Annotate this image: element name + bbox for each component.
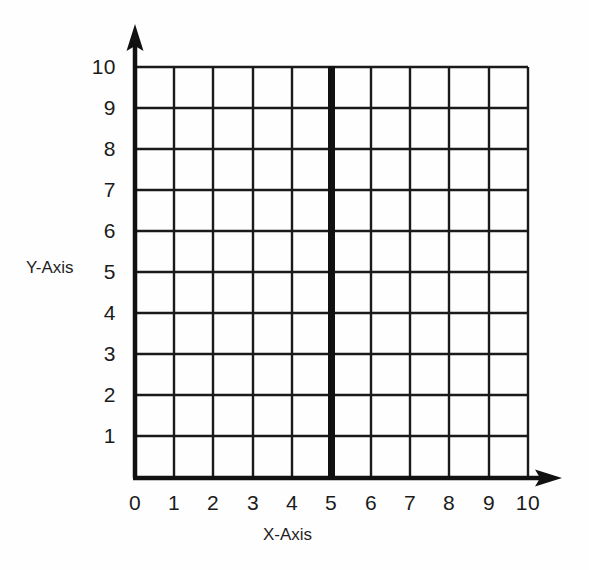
x-tick-label-0: 0: [118, 492, 152, 513]
x-axis-line: [133, 470, 562, 487]
y-tick-label-9: 9: [82, 97, 116, 118]
x-tick-label-8: 8: [432, 492, 466, 513]
y-axis-title: Y-Axis: [26, 259, 74, 276]
x-tick-label-6: 6: [354, 492, 388, 513]
chart-container: 10 9 8 7 6 5 4 3 2 1 0 1 2 3 4 5 6 7 8 9…: [0, 0, 589, 570]
x-tick-label-1: 1: [157, 492, 191, 513]
x-tick-label-2: 2: [196, 492, 230, 513]
y-tick-label-7: 7: [82, 179, 116, 200]
x-tick-label-3: 3: [236, 492, 270, 513]
y-tick-label-5: 5: [82, 261, 116, 282]
x-tick-label-10: 10: [511, 492, 545, 513]
y-tick-label-1: 1: [82, 425, 116, 446]
x-tick-label-4: 4: [275, 492, 309, 513]
y-tick-label-8: 8: [82, 138, 116, 159]
x-tick-label-9: 9: [472, 492, 506, 513]
x-tick-label-7: 7: [393, 492, 427, 513]
y-tick-label-2: 2: [82, 384, 116, 405]
y-axis-line: [127, 24, 144, 478]
y-tick-label-10: 10: [82, 56, 116, 77]
y-tick-label-6: 6: [82, 220, 116, 241]
x-axis-title: X-Axis: [263, 526, 312, 543]
y-tick-label-4: 4: [82, 302, 116, 323]
y-tick-label-3: 3: [82, 343, 116, 364]
chart-plot-area: [0, 0, 589, 570]
x-tick-label-5: 5: [314, 492, 348, 513]
